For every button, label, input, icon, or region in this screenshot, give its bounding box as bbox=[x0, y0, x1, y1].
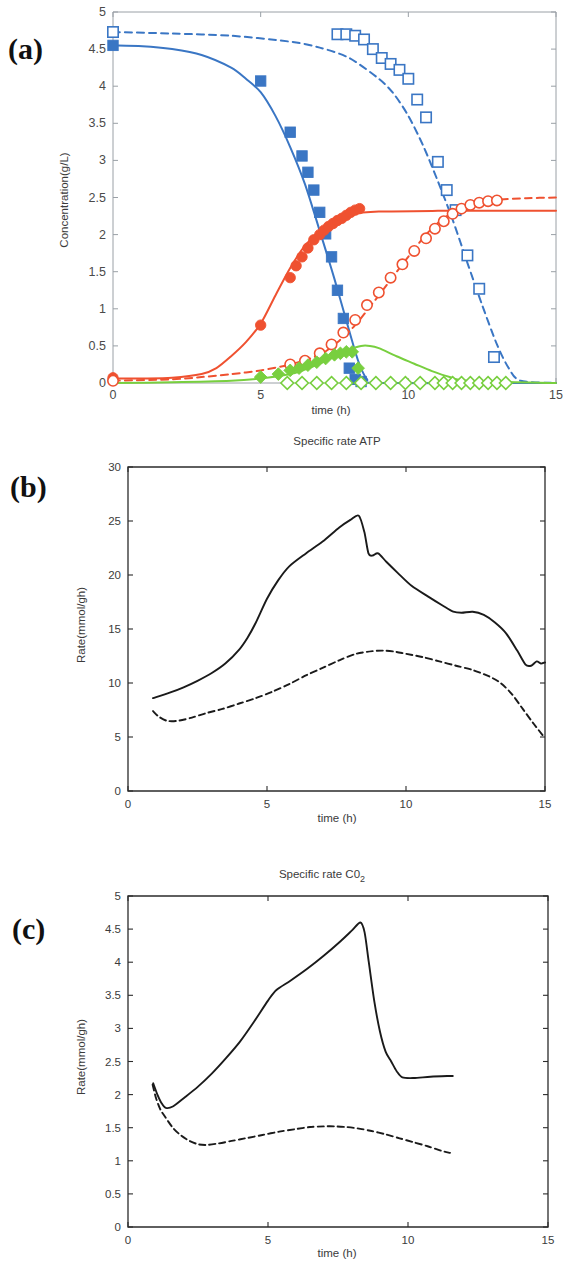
y-tick-label: 1 bbox=[99, 302, 106, 316]
data-marker bbox=[338, 327, 348, 337]
panel-b-label: (b) bbox=[10, 472, 47, 502]
panel-a-label: (a) bbox=[8, 34, 43, 64]
data-marker bbox=[442, 185, 452, 195]
panel-c-tick-labels: 00.511.522.533.544.55051015 bbox=[105, 890, 554, 1246]
data-marker bbox=[354, 203, 364, 213]
panel-b-xaxis-label: time (h) bbox=[318, 812, 357, 824]
panel-b-tick-labels: 051015202530051015 bbox=[108, 461, 551, 810]
data-marker bbox=[297, 252, 307, 262]
data-marker bbox=[384, 377, 397, 390]
data-marker bbox=[462, 250, 472, 260]
data-marker bbox=[433, 157, 443, 167]
y-tick-label: 1.5 bbox=[89, 265, 106, 279]
data-marker bbox=[385, 272, 395, 282]
data-marker bbox=[255, 320, 265, 330]
data-marker bbox=[108, 27, 118, 37]
series-line bbox=[113, 32, 556, 383]
panel-c-label: (c) bbox=[12, 914, 45, 944]
x-tick-label: 0 bbox=[125, 798, 131, 810]
data-marker bbox=[421, 112, 431, 122]
panel-c-chart: Specific rate C02 00.511.522.533.544.550… bbox=[0, 852, 568, 1283]
y-tick-label: 4 bbox=[99, 79, 106, 93]
panel-a-xaxis-label: time (h) bbox=[312, 404, 351, 416]
y-tick-label: 0.5 bbox=[89, 339, 106, 353]
x-tick-label: 10 bbox=[402, 1234, 415, 1246]
data-marker bbox=[326, 252, 336, 262]
panel-c-xaxis-label: time (h) bbox=[318, 1247, 357, 1259]
data-marker bbox=[362, 300, 372, 310]
panel-b-chart: Specific rate ATP 051015202530051015 tim… bbox=[0, 420, 568, 852]
panel-b-yaxis-label: Rate(mmol/gh) bbox=[75, 587, 87, 663]
y-tick-label: 3.5 bbox=[105, 989, 121, 1001]
y-tick-label: 3.5 bbox=[89, 116, 106, 130]
data-marker bbox=[414, 377, 427, 390]
y-tick-label: 4 bbox=[115, 956, 122, 968]
y-tick-label: 30 bbox=[108, 461, 121, 473]
y-tick-label: 5 bbox=[99, 5, 106, 19]
data-marker bbox=[332, 285, 342, 295]
data-marker bbox=[281, 377, 294, 390]
y-tick-label: 5 bbox=[115, 731, 121, 743]
data-marker bbox=[492, 195, 502, 205]
data-marker bbox=[489, 352, 499, 362]
series-line bbox=[113, 45, 556, 383]
x-tick-label: 15 bbox=[549, 388, 563, 402]
y-tick-label: 2.5 bbox=[89, 191, 106, 205]
panel-c-title-subscript: 2 bbox=[360, 874, 365, 884]
x-tick-label: 0 bbox=[110, 388, 117, 402]
x-tick-label: 10 bbox=[401, 388, 415, 402]
y-tick-label: 0 bbox=[99, 376, 106, 390]
x-tick-label: 15 bbox=[542, 1234, 555, 1246]
data-marker bbox=[499, 377, 512, 390]
y-tick-label: 2 bbox=[99, 228, 106, 242]
data-marker bbox=[338, 313, 348, 323]
axis-frame bbox=[128, 467, 545, 791]
y-tick-label: 15 bbox=[108, 623, 121, 635]
data-marker bbox=[285, 272, 295, 282]
data-marker bbox=[291, 261, 301, 271]
data-marker bbox=[397, 259, 407, 269]
panel-c-axes bbox=[128, 896, 548, 1227]
data-marker bbox=[430, 223, 440, 233]
data-marker bbox=[309, 185, 319, 195]
x-tick-label: 5 bbox=[257, 388, 264, 402]
axis-frame bbox=[128, 896, 548, 1227]
panel-a-curves bbox=[113, 32, 556, 383]
panel-b-axes bbox=[128, 467, 545, 791]
y-tick-label: 4.5 bbox=[105, 923, 121, 935]
y-tick-label: 1 bbox=[115, 1155, 121, 1167]
data-marker bbox=[359, 34, 369, 44]
y-tick-label: 4.5 bbox=[89, 42, 106, 56]
panel-a-chart: 00.511.522.533.544.55051015 time (h) Con… bbox=[0, 0, 568, 420]
data-marker bbox=[315, 207, 325, 217]
y-tick-label: 3 bbox=[115, 1022, 121, 1034]
x-tick-label: 5 bbox=[264, 798, 270, 810]
y-tick-label: 2.5 bbox=[105, 1056, 121, 1068]
panel-b-title: Specific rate ATP bbox=[293, 435, 381, 447]
data-marker bbox=[297, 151, 307, 161]
y-tick-label: 25 bbox=[108, 515, 121, 527]
panel-a: (a) 00.511.522.533.544.55051015 time (h)… bbox=[0, 0, 568, 420]
y-tick-label: 0 bbox=[115, 1221, 121, 1233]
panel-c-title: Specific rate C02 bbox=[279, 868, 365, 884]
panel-b: (b) Specific rate ATP 051015202530051015… bbox=[0, 420, 568, 852]
data-marker bbox=[272, 368, 285, 381]
series-line bbox=[153, 922, 453, 1108]
panel-c-title-main: Specific rate C0 bbox=[279, 868, 360, 880]
data-marker bbox=[296, 377, 309, 390]
y-tick-label: 0 bbox=[115, 785, 121, 797]
panel-c-curves bbox=[153, 922, 453, 1152]
series-line bbox=[153, 1085, 450, 1153]
y-tick-label: 1.5 bbox=[105, 1122, 121, 1134]
series-line bbox=[153, 515, 545, 698]
data-marker bbox=[303, 167, 313, 177]
data-marker bbox=[474, 284, 484, 294]
data-marker bbox=[285, 127, 295, 137]
x-tick-label: 10 bbox=[400, 798, 413, 810]
data-marker bbox=[439, 216, 449, 226]
data-marker bbox=[255, 76, 265, 86]
data-marker bbox=[421, 233, 431, 243]
data-marker bbox=[374, 287, 384, 297]
x-tick-label: 15 bbox=[539, 798, 552, 810]
data-marker bbox=[310, 377, 323, 390]
